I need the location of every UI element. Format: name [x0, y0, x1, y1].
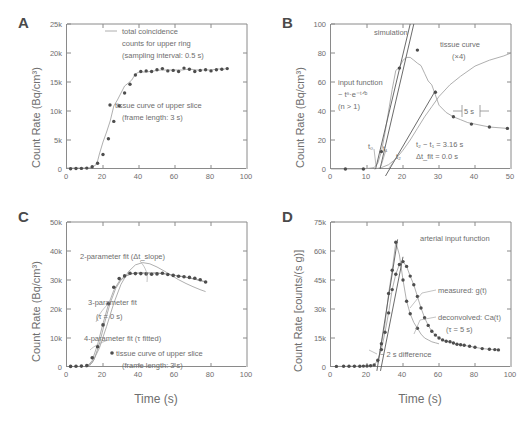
panel-b-letter: B: [282, 14, 293, 31]
panel-c-fit3-label: 3-parameter fit: [88, 298, 137, 309]
panel-c-legend-2: (frame length: 3 s): [122, 361, 183, 372]
panel-b-interval-label: 5 s: [464, 107, 474, 118]
panel-d-difference-label: ~ 2 s difference: [380, 350, 431, 361]
panel-b-t2-label: t₂: [396, 152, 401, 163]
panel-d-deconvolved-label: deconvolved: Ca(t): [438, 313, 501, 324]
panel-b-ytick-80: 80: [304, 49, 326, 58]
panel-a: A Count Rate (Bq/cm³): [0, 0, 264, 200]
panel-b-input-function-label: input function: [338, 78, 383, 89]
panel-c-fit4-label: 4-parameter fit (τ fitted): [84, 334, 161, 345]
panel-b-ytick-60: 60: [304, 78, 326, 87]
panel-a-legend-point-1: tissue curve of upper slice: [115, 101, 202, 112]
panel-a-legend-line-3: (sampling interval: 0.5 s): [122, 51, 204, 62]
panel-b-equation-1: t₂ − t₁ = 3.16 s: [416, 140, 463, 151]
panel-b-xtick-10: 10: [358, 172, 374, 181]
panel-b-input-function-formula: ~ tⁿ·e⁻ᵗᐟᵇ: [338, 90, 367, 101]
panel-d-deconvolved-tau: (τ = 5 s): [446, 325, 473, 336]
panel-b-tissue-curve-scale: (×4): [452, 52, 466, 63]
panel-a-legend-point-2: (frame length: 3 s): [122, 113, 183, 124]
panel-b-xtick-30: 30: [430, 172, 446, 181]
panel-b-t0-label: t₀: [368, 142, 373, 153]
panel-a-legend-line-1: total coincidence: [122, 27, 178, 38]
panel-b-equation-2: Δt_fit = 0.0 s: [416, 152, 458, 163]
panel-a-legend-line-2: counts for upper ring: [122, 39, 191, 50]
panel-c-leaders: [0, 200, 264, 425]
panel-b-ytick-100: 100: [304, 20, 326, 29]
panel-d-title-label: arterial input function: [420, 234, 490, 245]
panel-b: B Count Rate (Bq/cm³): [264, 0, 528, 200]
panel-b-tissue-curve-label: tissue curve: [440, 40, 480, 51]
panel-b-xtick-20: 20: [394, 172, 410, 181]
panel-d-measured-label: measured: g(t): [438, 286, 487, 297]
panel-b-ytick-20: 20: [304, 136, 326, 145]
panel-c: C Count Rate (Bq/cm³): [0, 200, 264, 425]
panel-b-simulation-label: simulation: [374, 28, 408, 39]
panel-c-legend-1: tissue curve of upper slice: [116, 349, 203, 360]
panel-c-fit2-label: 2-parameter fit (Δt_slope): [80, 252, 165, 263]
figure-root: A Count Rate (Bq/cm³): [0, 0, 528, 425]
panel-b-ytick-40: 40: [304, 107, 326, 116]
panel-c-fit3-tau: (τ = 0 s): [96, 312, 123, 323]
panel-b-t1-label: t₁: [383, 144, 388, 155]
panel-b-xtick-0: 0: [322, 172, 338, 181]
panel-b-input-function-condition: (n > 1): [338, 102, 360, 113]
panel-d: D Count Rate [counts/(s g)]: [264, 200, 528, 425]
panel-b-xtick-50: 50: [502, 172, 518, 181]
panel-b-xtick-40: 40: [466, 172, 482, 181]
